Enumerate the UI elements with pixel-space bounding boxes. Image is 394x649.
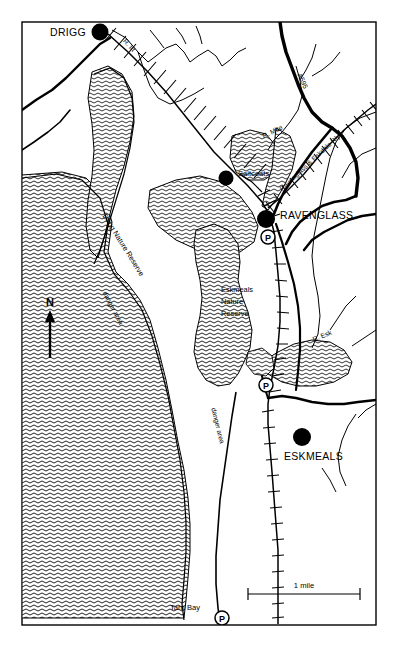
label-drigg: DRIGG (50, 26, 86, 38)
label-eskmeals-reserve-line2: Nature (221, 297, 243, 306)
label-eskmeals-reserve-line1: Eskmeals (221, 285, 253, 294)
label-eskmeals: ESKMEALS (284, 450, 343, 462)
parking-marker-eskmeals: P (259, 378, 273, 392)
map-figure: P P P DRIGG RAVENGLASS ESKMEALS Saltcoat… (0, 0, 394, 649)
parking-label-eskmeals: P (263, 381, 269, 391)
marker-drigg (92, 24, 109, 41)
marker-eskmeals (293, 428, 311, 446)
label-ravenglass: RAVENGLASS (280, 209, 353, 221)
label-tarn-bay: Tarn Bay (170, 603, 200, 612)
map-canvas: P P P DRIGG RAVENGLASS ESKMEALS Saltcoat… (0, 0, 394, 649)
parking-label-ravenglass: P (265, 233, 271, 243)
label-saltcoats: Saltcoats (238, 169, 269, 178)
marker-ravenglass (257, 210, 275, 228)
parking-marker-ravenglass: P (261, 230, 275, 244)
compass-label: N (46, 296, 54, 308)
parking-marker-tarn-bay: P (215, 611, 229, 625)
label-eskmeals-reserve-line3: Reserve (221, 309, 249, 318)
scale-bar-label: 1 mile (294, 581, 314, 590)
parking-label-tarn-bay: P (219, 614, 225, 624)
marker-saltcoats (219, 171, 234, 186)
